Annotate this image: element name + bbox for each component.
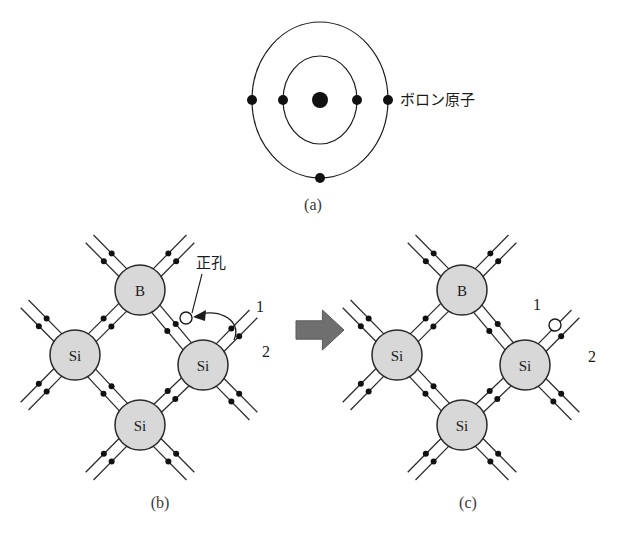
electron-motion-arrowhead xyxy=(193,310,206,321)
outer-bond-electron xyxy=(173,451,179,457)
outer-bond-electron xyxy=(165,459,171,465)
valence-electron-2 xyxy=(383,95,393,105)
panel-c-atoms: BSiSiSi xyxy=(372,265,550,450)
atom-si-label: Si xyxy=(391,348,404,364)
nucleus xyxy=(312,92,328,108)
outer-bond-electron xyxy=(358,381,364,387)
covalent-bond-electron xyxy=(109,383,115,389)
outer-bond-electron xyxy=(423,451,429,457)
outer-bond-electron xyxy=(101,258,107,264)
covalent-bond-electron xyxy=(431,383,437,389)
rightward-block-arrow-icon xyxy=(296,310,344,350)
panel-c-caption: (c) xyxy=(459,494,477,512)
outer-bond-electron xyxy=(236,333,242,339)
bond-index-1-label: 1 xyxy=(533,296,541,313)
hole-marker xyxy=(549,319,561,331)
atom-b-label: B xyxy=(135,283,145,299)
outer-bond-electron xyxy=(109,459,115,465)
hole-label: 正孔 xyxy=(196,254,226,272)
hole-leader-line xyxy=(192,274,202,313)
panel-b-group: BSiSiSi 正孔 1 2 (b) xyxy=(21,235,270,512)
outer-bond-electron xyxy=(550,399,556,405)
atom-si-label: Si xyxy=(519,358,532,374)
outer-bond-electron xyxy=(558,391,564,397)
covalent-bond-electron xyxy=(164,328,170,334)
atom-si-label: Si xyxy=(456,418,469,434)
panel-b-atoms: BSiSiSi xyxy=(50,265,228,450)
outer-bond-electron xyxy=(558,333,564,339)
outer-bond-electron xyxy=(36,323,42,329)
covalent-bond-electron xyxy=(101,316,107,322)
covalent-bond-electron xyxy=(486,328,492,334)
diagram-canvas: ボロン原子 (a) BSiSiSi 正孔 1 2 (b) BSiSiSi 1 2… xyxy=(0,0,626,542)
panel-a-caption: (a) xyxy=(304,196,322,214)
covalent-bond-electron xyxy=(165,388,171,394)
outer-bond-electron xyxy=(495,258,501,264)
covalent-bond-electron xyxy=(495,321,501,327)
panel-b-caption: (b) xyxy=(151,494,170,512)
outer-bond-electron xyxy=(366,315,372,321)
outer-bond-electron xyxy=(487,250,493,256)
outer-bond-electron xyxy=(44,389,50,395)
valence-electron-3 xyxy=(315,173,325,183)
valence-electron-1 xyxy=(247,95,257,105)
outer-bond-electron xyxy=(358,323,364,329)
outer-shell-electrons xyxy=(247,95,393,183)
atom-si-label: Si xyxy=(134,418,147,434)
inner-electron-1 xyxy=(278,95,288,105)
panel-a-group: ボロン原子 (a) xyxy=(247,22,475,214)
outer-bond-electron xyxy=(495,451,501,457)
outer-bond-electron xyxy=(109,250,115,256)
covalent-bond-electron xyxy=(422,391,428,397)
atom-si-label: Si xyxy=(197,358,210,374)
outer-bond-electron xyxy=(431,250,437,256)
figure-root: ボロン原子 (a) BSiSiSi 正孔 1 2 (b) BSiSiSi 1 2… xyxy=(0,0,626,542)
outer-bond-electron xyxy=(236,391,242,397)
bond-index-2-label: 2 xyxy=(588,348,596,365)
outer-bond-electron xyxy=(173,258,179,264)
covalent-bond-electron xyxy=(172,396,178,402)
covalent-bond-electron xyxy=(423,316,429,322)
outer-bond-electron xyxy=(487,459,493,465)
outer-bond-electron xyxy=(44,315,50,321)
covalent-bond-electron xyxy=(100,391,106,397)
outer-bond-electron xyxy=(431,459,437,465)
bond-index-2-label: 2 xyxy=(262,343,270,360)
outer-bond-electron xyxy=(228,399,234,405)
hole-marker xyxy=(180,312,192,324)
outer-bond-electron xyxy=(366,389,372,395)
boron-atom-label: ボロン原子 xyxy=(400,91,475,109)
covalent-bond-electron xyxy=(108,323,114,329)
atom-b-label: B xyxy=(457,283,467,299)
covalent-bond-electron xyxy=(430,323,436,329)
outer-bond-electron xyxy=(423,258,429,264)
outer-bond-electron xyxy=(165,250,171,256)
panel-c-group: BSiSiSi 1 2 (c) xyxy=(343,235,596,512)
outer-bond-electron xyxy=(36,381,42,387)
covalent-bond-electron xyxy=(173,321,179,327)
bond-index-1-label: 1 xyxy=(256,298,264,315)
outer-bond-electron xyxy=(228,325,234,331)
inner-electron-2 xyxy=(352,95,362,105)
covalent-bond-electron xyxy=(487,388,493,394)
covalent-bond-electron xyxy=(494,396,500,402)
atom-si-label: Si xyxy=(69,348,82,364)
outer-bond-electron xyxy=(101,451,107,457)
